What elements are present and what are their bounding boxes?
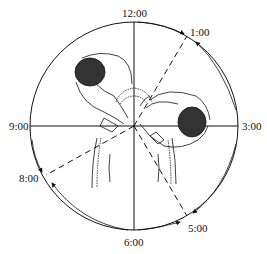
arrow-12-to-1 xyxy=(138,22,184,34)
arrow-6-to-8 xyxy=(52,183,128,230)
arrow-6-to-5 xyxy=(138,222,180,230)
dashed-line-5-oclock xyxy=(134,126,187,216)
dashed-line-1-oclock xyxy=(134,36,187,126)
arrow-3-to-1 xyxy=(196,42,236,110)
surgeon-head-upper-left xyxy=(75,58,105,86)
surgeon-upper-left xyxy=(75,53,132,132)
arrow-9-to-8 xyxy=(32,140,42,172)
arrow-3-to-5 xyxy=(193,144,236,213)
clock-diagram xyxy=(0,0,267,254)
label-12-oclock: 12:00 xyxy=(122,8,147,19)
label-5-oclock: 5:00 xyxy=(188,223,208,234)
label-3-oclock: 3:00 xyxy=(242,121,262,132)
surgeon-lower-right xyxy=(140,92,210,147)
dashed-line-8-oclock xyxy=(46,126,134,175)
label-1-oclock: 1:00 xyxy=(190,27,210,38)
label-9-oclock: 9:00 xyxy=(9,121,29,132)
surgeon-head-lower-right xyxy=(178,107,206,137)
label-6-oclock: 6:00 xyxy=(124,237,144,248)
label-8-oclock: 8:00 xyxy=(19,173,39,184)
